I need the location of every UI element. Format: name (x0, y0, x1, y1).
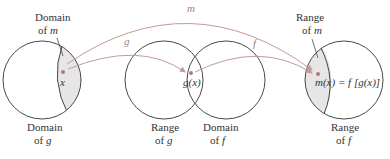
svg-text:Range: Range (151, 121, 179, 133)
domain-of-f-label: Domain of f (203, 121, 239, 146)
point-gx-label: g(x) (183, 76, 201, 89)
svg-text:of m: of m (302, 24, 322, 36)
svg-text:of g: of g (155, 134, 173, 146)
composition-diagram: m g f x g(x) m(x) = f [g(x)] Domain of m… (0, 0, 390, 159)
svg-text:of m: of m (38, 24, 58, 36)
domain-of-g-label: Domain of g (27, 121, 63, 146)
svg-text:Range: Range (331, 121, 359, 133)
svg-text:Domain: Domain (27, 121, 63, 133)
range-of-f-label: Range of f (331, 121, 359, 146)
point-x-dot (61, 70, 65, 74)
point-x-label: x (59, 76, 65, 88)
domain-of-m-label: Domain of m (35, 11, 71, 36)
range-of-m-label: Range of m (296, 11, 324, 36)
svg-text:of f: of f (336, 134, 353, 146)
arrow-f (195, 56, 312, 73)
point-gx-dot (189, 71, 193, 75)
svg-text:of g: of g (34, 134, 52, 146)
range-of-g-label: Range of g (151, 121, 179, 146)
svg-text:of f: of f (210, 134, 227, 146)
arrow-g-label: g (124, 35, 130, 47)
arrow-m-label: m (187, 2, 195, 14)
svg-text:Domain: Domain (35, 11, 71, 23)
svg-text:Domain: Domain (203, 121, 239, 133)
svg-text:Range: Range (296, 11, 324, 23)
point-mx-label: m(x) = f [g(x)] (315, 76, 380, 89)
arrow-m (67, 23, 312, 70)
